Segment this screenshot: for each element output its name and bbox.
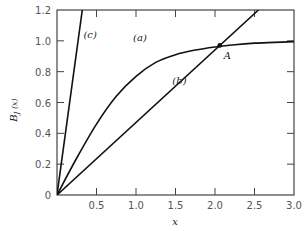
point-A-marker	[217, 43, 222, 48]
x-axis-label: x	[172, 216, 178, 227]
x-tick-label: 3.0	[286, 200, 302, 211]
y-tick-label: 0.8	[35, 67, 51, 78]
axis-ticks: 0.51.01.52.02.53.000.20.40.60.81.01.2	[35, 5, 302, 211]
series-a	[57, 42, 294, 195]
x-tick-label: 1.5	[168, 200, 184, 211]
y-tick-label: 0.4	[35, 128, 51, 139]
y-tick-label: 1.2	[35, 5, 51, 16]
y-axis-label: BJ (x)	[8, 98, 21, 122]
annotations: A(a)(b)(c)	[83, 29, 230, 86]
curve-label: (c)	[83, 29, 97, 40]
y-tick-label: 0.6	[35, 98, 51, 109]
chart: 0.51.01.52.02.53.000.20.40.60.81.01.2 A(…	[0, 0, 307, 231]
y-tick-label: 1.0	[35, 36, 51, 47]
x-tick-label: 0.5	[89, 200, 105, 211]
x-tick-label: 2.5	[247, 200, 263, 211]
y-tick-label: 0.2	[35, 159, 51, 170]
curve-label: (a)	[133, 32, 147, 43]
x-tick-label: 2.0	[207, 200, 223, 211]
curve-label: (b)	[172, 75, 186, 86]
svg-text:BJ (x): BJ (x)	[8, 98, 21, 122]
y-tick-label: 0	[45, 190, 51, 201]
point-A-label: A	[223, 50, 231, 61]
x-tick-label: 1.0	[128, 200, 144, 211]
